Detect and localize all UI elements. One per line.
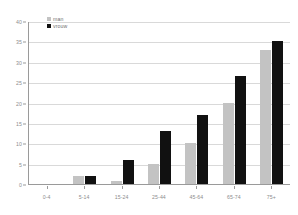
y-tick-label: 0 (19, 182, 22, 188)
bar-series-container (29, 22, 290, 184)
bar-group (253, 22, 290, 184)
bar-chart: 0510152025303540 0-45-1415-2425-4445-646… (0, 0, 298, 215)
x-tickmark (271, 186, 272, 189)
y-tick-label: 30 (16, 60, 22, 66)
x-tick-label: 0-4 (28, 194, 65, 200)
bar-vrouw (123, 160, 134, 184)
y-tickmark (23, 185, 26, 186)
y-tickmark (23, 83, 26, 84)
bar-man (148, 164, 159, 184)
bar-vrouw (272, 41, 283, 184)
y-tickmark (23, 62, 26, 63)
x-axis: 0-45-1415-2425-4445-6465-7475+ (28, 186, 290, 212)
x-axis-cell: 5-14 (65, 186, 102, 212)
y-axis: 0510152025303540 (0, 22, 26, 185)
bar-man (111, 181, 122, 184)
x-tick-label: 45-64 (178, 194, 215, 200)
y-tickmark (23, 103, 26, 104)
plot-area (28, 22, 290, 185)
bar-group (29, 22, 66, 184)
legend-label-man: man (53, 16, 63, 22)
x-tick-label: 25-44 (140, 194, 177, 200)
x-axis-cell: 65-74 (215, 186, 252, 212)
bar-vrouw (85, 176, 96, 184)
y-tick-label: 10 (16, 141, 22, 147)
bar-group (141, 22, 178, 184)
bar-vrouw (235, 76, 246, 184)
bar-group (104, 22, 141, 184)
x-tickmark (122, 186, 123, 189)
bar-man (223, 103, 234, 185)
bar-group (178, 22, 215, 184)
y-tickmark (23, 42, 26, 43)
legend-swatch-vrouw-icon (47, 24, 51, 28)
y-tickmark (23, 144, 26, 145)
chart-legend: man vrouw (47, 16, 67, 29)
x-axis-cell: 25-44 (140, 186, 177, 212)
bar-man (185, 143, 196, 184)
legend-label-vrouw: vrouw (53, 23, 67, 29)
x-axis-cell: 0-4 (28, 186, 65, 212)
y-tick-label: 20 (16, 101, 22, 107)
x-tick-label: 75+ (253, 194, 290, 200)
y-tickmark (23, 123, 26, 124)
bar-man (73, 176, 84, 184)
x-tick-label: 15-24 (103, 194, 140, 200)
bar-vrouw (197, 115, 208, 184)
x-tickmark (234, 186, 235, 189)
y-tick-label: 40 (16, 19, 22, 25)
y-tickmark (23, 22, 26, 23)
x-tick-label: 65-74 (215, 194, 252, 200)
bar-group (66, 22, 103, 184)
x-tick-label: 5-14 (65, 194, 102, 200)
x-tickmark (47, 186, 48, 189)
x-tickmark (159, 186, 160, 189)
x-axis-cell: 45-64 (178, 186, 215, 212)
legend-item-vrouw: vrouw (47, 23, 67, 29)
x-tickmark (84, 186, 85, 189)
x-axis-cell: 15-24 (103, 186, 140, 212)
y-tick-label: 5 (19, 162, 22, 168)
y-tickmark (23, 164, 26, 165)
y-tick-label: 35 (16, 39, 22, 45)
bar-man (260, 50, 271, 184)
legend-swatch-man-icon (47, 17, 51, 21)
legend-item-man: man (47, 16, 67, 22)
bar-group (215, 22, 252, 184)
y-tick-label: 25 (16, 80, 22, 86)
x-tickmark (196, 186, 197, 189)
y-tick-label: 15 (16, 121, 22, 127)
x-axis-cell: 75+ (253, 186, 290, 212)
bar-vrouw (160, 131, 171, 184)
